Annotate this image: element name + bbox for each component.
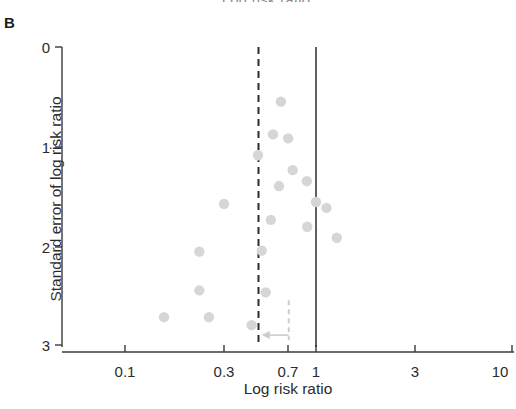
- reference-lines-group: [259, 47, 316, 347]
- data-point: [194, 285, 204, 295]
- data-point: [321, 203, 331, 213]
- data-point: [219, 199, 229, 209]
- data-point: [246, 320, 256, 330]
- data-points-group: [159, 96, 342, 330]
- data-point: [260, 287, 270, 297]
- y-axis-ticks: [55, 47, 62, 345]
- data-point: [302, 222, 312, 232]
- data-point: [204, 312, 214, 322]
- funnel-plot-figure: Log risk ratio B Standard error of log r…: [0, 0, 516, 409]
- adjustment-arrow-head: [262, 331, 270, 339]
- data-point: [159, 312, 169, 322]
- x-axis-ticks: [125, 345, 512, 352]
- plot-canvas: [0, 0, 516, 409]
- data-point: [302, 176, 312, 186]
- data-point: [311, 197, 321, 207]
- data-point: [287, 165, 297, 175]
- data-point: [194, 246, 204, 256]
- data-point: [332, 233, 342, 243]
- data-point: [268, 129, 278, 139]
- data-point: [283, 133, 293, 143]
- data-point: [266, 215, 276, 225]
- data-point: [274, 181, 284, 191]
- data-point: [253, 150, 263, 160]
- annotation-arrows-group: [262, 331, 289, 339]
- data-point: [257, 245, 267, 255]
- data-point: [276, 96, 286, 106]
